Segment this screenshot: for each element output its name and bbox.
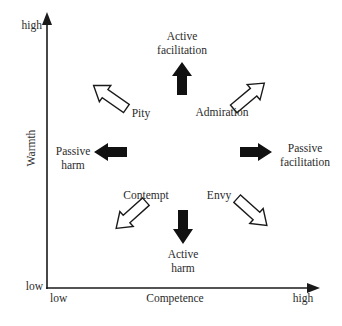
x-axis-title: Competence <box>146 292 203 305</box>
admiration-label: Admiration <box>195 106 248 118</box>
pity-label: Pity <box>132 107 151 120</box>
passive-facilitation-label-line2: facilitation <box>280 156 330 168</box>
envy-arrow-icon <box>230 191 273 233</box>
passive-harm-arrow-icon <box>94 143 127 161</box>
active-harm-label-line1: Active <box>168 248 199 260</box>
active-harm-label-line2: harm <box>171 262 195 274</box>
active-harm-arrow-icon <box>173 210 193 244</box>
y-axis-high-label: high <box>22 19 43 32</box>
stereotype-map-diagram: high low Warmth low Competence high Acti… <box>0 0 342 326</box>
x-axis-low-label: low <box>50 292 68 304</box>
passive-harm-label-line1: Passive <box>56 145 91 157</box>
y-axis-arrowhead-icon <box>42 12 52 25</box>
envy-label: Envy <box>207 189 232 202</box>
active-facilitation-label-line1: Active <box>167 30 198 42</box>
contempt-label: Contempt <box>123 189 169 202</box>
passive-harm-label-line2: harm <box>61 159 85 171</box>
active-facilitation-arrow-icon <box>172 62 192 95</box>
y-axis-low-label: low <box>26 280 44 292</box>
pity-arrow-icon <box>88 77 132 116</box>
x-axis-high-label: high <box>293 292 314 305</box>
active-facilitation-label-line2: facilitation <box>157 44 207 56</box>
passive-facilitation-label-line1: Passive <box>288 142 323 154</box>
y-axis-title: Warmth <box>25 129 37 166</box>
diagram-canvas: high low Warmth low Competence high Acti… <box>0 0 342 326</box>
passive-facilitation-arrow-icon <box>240 143 272 161</box>
